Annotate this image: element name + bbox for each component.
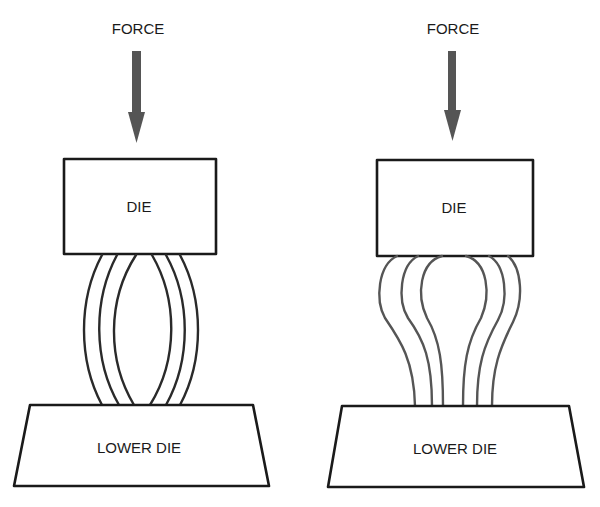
left-panel: FORCE DIE LOWER DIE: [14, 20, 269, 486]
forging-diagram: FORCE DIE LOWER DIE FORCE: [0, 0, 600, 507]
left-force-arrow-icon: [128, 51, 145, 143]
left-lower-die-label: LOWER DIE: [97, 439, 181, 456]
right-panel: FORCE DIE LOWER DIE: [328, 20, 584, 487]
left-upper-die: DIE: [64, 159, 216, 254]
right-upper-die: DIE: [377, 160, 533, 256]
left-lower-die: LOWER DIE: [14, 405, 269, 486]
right-force-arrow-icon: [444, 51, 461, 141]
left-upper-die-label: DIE: [126, 198, 151, 215]
right-fibers: [379, 256, 520, 406]
left-force-label: FORCE: [112, 20, 165, 37]
right-force-label: FORCE: [427, 20, 480, 37]
right-upper-die-label: DIE: [441, 199, 466, 216]
left-fibers: [84, 255, 198, 405]
right-lower-die: LOWER DIE: [328, 406, 584, 487]
right-lower-die-label: LOWER DIE: [413, 440, 497, 457]
